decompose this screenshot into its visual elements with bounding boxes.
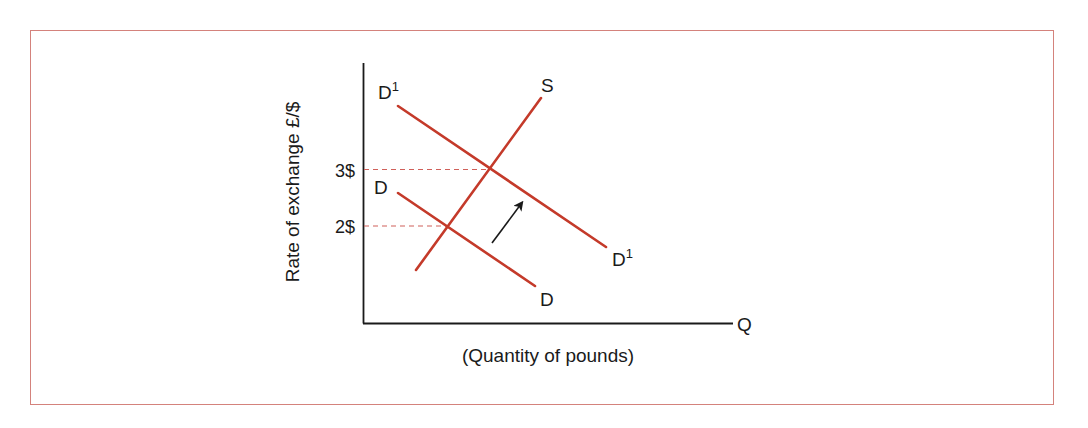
demand-curve-d: [398, 193, 535, 286]
supply-curve-s: [416, 98, 541, 270]
tick-label-2: 2$: [335, 217, 355, 237]
label-d1-start: D1: [378, 79, 399, 103]
label-d1-end-sup: 1: [626, 246, 633, 261]
label-d1-start-sup: 1: [392, 79, 399, 94]
y-axis-label: Rate of exchange £/$: [282, 101, 303, 282]
label-d1-start-letter: D: [378, 82, 392, 103]
tick-label-3: 3$: [335, 161, 355, 181]
label-d-end: D: [540, 289, 554, 310]
label-d1-end: D1: [612, 246, 633, 270]
x-axis-label: (Quantity of pounds): [462, 345, 634, 366]
label-s: S: [541, 75, 554, 96]
label-d-start: D: [374, 177, 388, 198]
label-q: Q: [737, 314, 752, 335]
exchange-rate-diagram: Rate of exchange £/$ 3$ 2$ S D1 D D1 D Q…: [0, 0, 1088, 428]
shift-arrow-icon: [492, 204, 521, 243]
label-d1-end-letter: D: [612, 249, 626, 270]
